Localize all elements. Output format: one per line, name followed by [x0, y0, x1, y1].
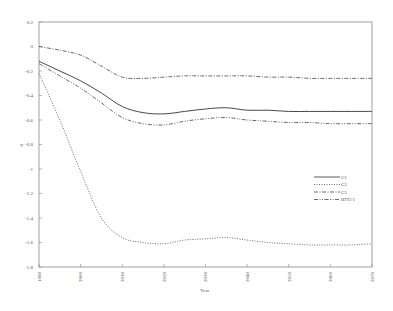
y-tick-label: -1.6	[25, 240, 33, 245]
y-axis-ticks: 0.20-0.2-0.4-0.6-0.8-1-1.2-1.4-1.6-1.8	[25, 20, 42, 270]
y-tick-label: -0.2	[25, 69, 33, 74]
y-tick-label: -1.4	[25, 216, 33, 221]
series-line-btu1	[39, 64, 372, 125]
x-tick-label: 2040	[245, 272, 250, 283]
y-axis-label: Y	[20, 143, 24, 148]
y-tick-label: -0.8	[25, 142, 33, 147]
x-tick-label: 2060	[328, 272, 333, 283]
x-tick-label: 2020	[162, 272, 167, 283]
x-tick-label: 2010	[120, 272, 125, 283]
legend-label: C2	[341, 182, 347, 187]
legend-label: C3	[341, 190, 347, 195]
y-tick-label: -1	[29, 167, 34, 172]
x-tick-label: 2070	[370, 272, 375, 283]
y-tick-label: 0.2	[27, 20, 34, 25]
line-chart: 0.20-0.2-0.4-0.6-0.8-1-1.2-1.4-1.6-1.8 1…	[0, 0, 393, 311]
y-tick-label: -0.4	[25, 93, 33, 98]
x-axis-label: Year	[200, 288, 210, 293]
legend-label: C1	[341, 175, 347, 180]
x-tick-label: 1990	[37, 272, 42, 283]
series-lines	[39, 47, 372, 246]
series-line-c2	[39, 73, 372, 245]
legend: C1C2C3BTU/1	[314, 175, 355, 203]
x-tick-label: 2050	[287, 272, 292, 283]
y-tick-label: -1.8	[25, 265, 33, 270]
legend-label: BTU/1	[341, 197, 355, 202]
x-tick-label: 2030	[203, 272, 208, 283]
series-line-c3	[39, 47, 372, 79]
x-tick-label: 2000	[78, 272, 83, 283]
y-tick-label: -1.2	[25, 191, 33, 196]
y-tick-label: -0.6	[25, 118, 33, 123]
series-line-c1	[39, 61, 372, 114]
y-tick-label: 0	[31, 44, 34, 49]
